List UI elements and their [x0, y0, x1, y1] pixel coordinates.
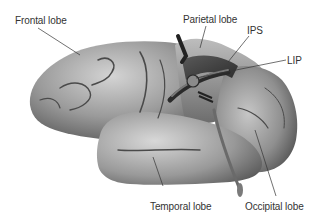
label-parietal-lobe: Parietal lobe: [183, 14, 237, 25]
probe-tip: [237, 183, 243, 197]
lip-marker-circle: [187, 75, 199, 87]
brain-illustration: [0, 0, 319, 222]
label-temporal-lobe: Temporal lobe: [150, 201, 212, 212]
frontal-leader-line: [38, 28, 80, 55]
cerebrum: [30, 39, 298, 185]
label-occipital-lobe: Occipital lobe: [245, 201, 304, 212]
label-ips: IPS: [247, 25, 263, 36]
brain-diagram: Frontal lobe Parietal lobe IPS LIP Tempo…: [0, 0, 319, 222]
label-frontal-lobe: Frontal lobe: [15, 15, 67, 26]
label-lip: LIP: [287, 55, 302, 66]
